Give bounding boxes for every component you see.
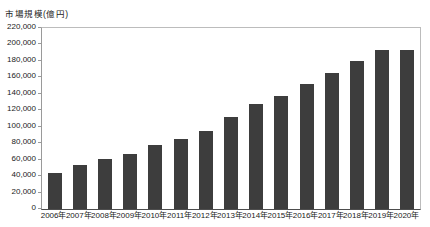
y-tick-label: 160,000 <box>7 72 36 80</box>
y-tick-label: 120,000 <box>7 105 36 113</box>
x-tick-label: 2018年 <box>343 212 369 220</box>
y-tick-mark <box>38 109 41 110</box>
x-tick-label: 2010年 <box>141 212 167 220</box>
bar <box>48 173 62 209</box>
bar <box>199 131 213 209</box>
y-tick-label: 180,000 <box>7 56 36 64</box>
x-tick-label: 2013年 <box>217 212 243 220</box>
y-tick-label: 200,000 <box>7 39 36 47</box>
plot-area <box>41 27 421 210</box>
bar <box>325 73 339 209</box>
bar <box>98 159 112 209</box>
x-tick-label: 2017年 <box>318 212 344 220</box>
y-tick-mark <box>38 175 41 176</box>
bar <box>300 84 314 209</box>
y-tick-label: 100,000 <box>7 122 36 130</box>
y-tick-label: 80,000 <box>12 138 36 146</box>
chart-title: 市場規模(億円) <box>5 7 69 19</box>
y-tick-mark <box>38 126 41 127</box>
bar <box>123 154 137 209</box>
bar <box>174 139 188 209</box>
x-tick-label: 2009年 <box>116 212 142 220</box>
x-tick-label: 2019年 <box>368 212 394 220</box>
y-tick-label: 60,000 <box>12 155 36 163</box>
bar <box>249 104 263 209</box>
y-tick-mark <box>38 76 41 77</box>
x-tick-label: 2016年 <box>293 212 319 220</box>
x-tick-label: 2014年 <box>242 212 268 220</box>
bar <box>224 117 238 209</box>
y-tick-label: 140,000 <box>7 89 36 97</box>
x-tick-label: 2006年 <box>41 212 67 220</box>
x-tick-label: 2011年 <box>167 212 192 220</box>
bar <box>148 145 162 209</box>
y-tick-mark <box>38 60 41 61</box>
bar <box>400 50 414 209</box>
y-tick-label: 0 <box>32 204 36 212</box>
y-tick-mark <box>38 142 41 143</box>
y-tick-mark <box>38 192 41 193</box>
x-tick-label: 2007年 <box>66 212 92 220</box>
y-tick-label: 220,000 <box>7 23 36 31</box>
y-tick-label: 20,000 <box>12 188 36 196</box>
bar-chart-figure: 市場規模(億円) 020,00040,00060,00080,000100,00… <box>0 0 430 227</box>
y-tick-mark <box>38 43 41 44</box>
x-tick-label: 2020年 <box>393 212 419 220</box>
y-tick-label: 40,000 <box>12 171 36 179</box>
x-tick-label: 2015年 <box>267 212 293 220</box>
bar <box>375 50 389 209</box>
y-tick-mark <box>38 159 41 160</box>
bar <box>350 61 364 209</box>
y-tick-mark <box>38 208 41 209</box>
bar <box>73 165 87 209</box>
x-tick-label: 2008年 <box>91 212 117 220</box>
x-tick-label: 2012年 <box>192 212 218 220</box>
y-tick-mark <box>38 27 41 28</box>
bar <box>274 96 288 209</box>
y-tick-mark <box>38 93 41 94</box>
